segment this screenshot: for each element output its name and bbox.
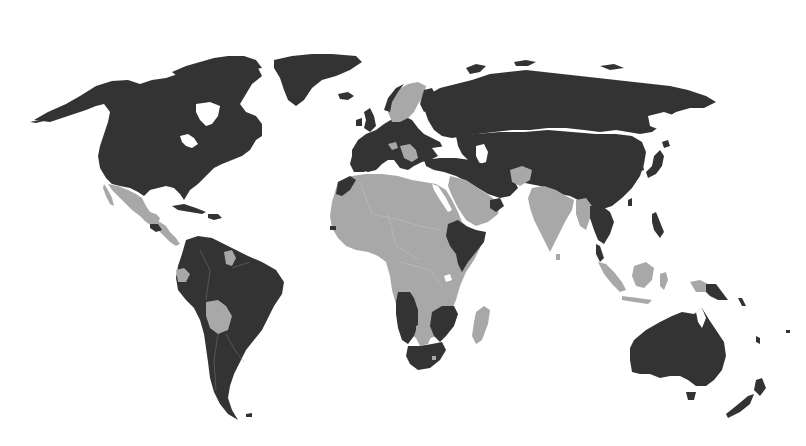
oceania	[598, 262, 790, 418]
map-canvas	[0, 0, 806, 446]
region-fiji	[786, 330, 790, 333]
region-hokkaido	[662, 140, 670, 148]
region-new-zealand-north[interactable]	[754, 378, 766, 396]
region-lesotho	[432, 356, 436, 360]
region-java	[622, 296, 652, 304]
region-iceland	[338, 92, 354, 100]
region-west-papua	[690, 280, 708, 292]
region-india[interactable]	[528, 186, 574, 252]
region-madagascar[interactable]	[472, 306, 490, 344]
region-indochina[interactable]	[590, 206, 614, 244]
region-hispaniola	[208, 214, 222, 220]
region-caribbean[interactable]	[172, 204, 206, 214]
region-vanuatu	[756, 336, 760, 344]
region-us-canada[interactable]	[34, 62, 262, 200]
south-america	[176, 236, 284, 420]
region-new-zealand-south	[726, 394, 754, 418]
region-myanmar[interactable]	[576, 198, 592, 230]
region-senegal	[330, 226, 336, 230]
region-mexico[interactable]	[108, 184, 160, 226]
region-taiwan	[628, 198, 632, 206]
region-solomon-islands	[738, 298, 746, 306]
region-sulawesi	[660, 272, 668, 290]
region-arctic-russia-islands	[514, 60, 624, 70]
region-tasmania	[686, 392, 696, 400]
region-sri-lanka	[556, 254, 560, 260]
region-novaya-zemlya	[466, 64, 486, 74]
region-philippines[interactable]	[652, 212, 664, 238]
region-scandinavia[interactable]	[388, 82, 426, 122]
region-sumatra[interactable]	[598, 262, 626, 292]
region-papua-new-guinea[interactable]	[706, 284, 728, 300]
region-falklands	[246, 413, 252, 417]
region-uk[interactable]	[364, 108, 376, 132]
north-america	[30, 56, 262, 246]
world-map	[0, 0, 806, 446]
region-south-africa[interactable]	[406, 342, 446, 370]
region-japan[interactable]	[646, 150, 664, 178]
region-borneo[interactable]	[632, 262, 654, 288]
region-ireland	[356, 118, 362, 126]
region-malay-peninsula	[596, 244, 604, 262]
region-russia[interactable]	[424, 70, 716, 138]
region-australia[interactable]	[630, 308, 726, 386]
